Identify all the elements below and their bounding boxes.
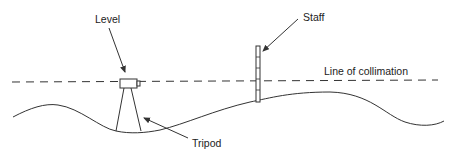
level-instrument	[120, 79, 140, 88]
level-label: Level	[95, 13, 120, 25]
line-of-collimation-label: Line of collimation	[324, 65, 408, 77]
tripod	[116, 88, 141, 131]
line-of-collimation	[12, 80, 438, 82]
staff-label: Staff	[303, 11, 324, 23]
ground-surface	[13, 92, 444, 133]
levelling-diagram: Level Staff Tripod Line of collimation	[0, 0, 452, 153]
tripod-arrow	[144, 118, 188, 138]
staff-arrow	[263, 19, 298, 51]
tripod-label: Tripod	[192, 137, 222, 149]
staff	[256, 46, 260, 102]
level-arrow	[109, 28, 125, 72]
